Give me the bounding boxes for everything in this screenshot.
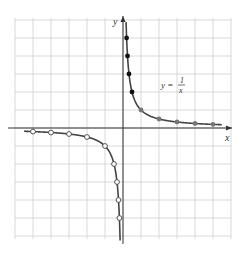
equation-lhs: y = xyxy=(160,80,173,90)
data-point-open-circle xyxy=(67,132,72,137)
y-axis-arrow-icon xyxy=(121,16,126,22)
data-point-filled-gray xyxy=(157,117,162,122)
equation-denominator: x xyxy=(178,86,183,95)
data-point-open-circle xyxy=(103,144,108,149)
data-point-filled-black xyxy=(125,54,130,59)
data-point-open-circle xyxy=(31,129,36,134)
x-axis-label: x xyxy=(224,132,230,143)
data-point-filled-gray xyxy=(211,122,216,127)
data-point-open-circle xyxy=(85,135,90,140)
y-axis-label: y xyxy=(112,16,118,27)
data-point-filled-black xyxy=(127,72,132,77)
data-point-filled-gray xyxy=(193,121,198,126)
data-point-filled-gray xyxy=(139,108,144,113)
data-point-open-circle xyxy=(116,198,121,203)
data-point-open-circle xyxy=(49,130,54,135)
data-point-filled-black xyxy=(124,36,129,41)
data-point-filled-gray xyxy=(175,120,180,125)
data-point-filled-black xyxy=(130,90,135,95)
data-point-open-circle xyxy=(115,180,120,185)
data-point-open-circle xyxy=(112,162,117,167)
equation-numerator: 1 xyxy=(180,76,184,85)
data-point-open-circle xyxy=(117,216,122,221)
hyperbola-chart: x y y = 1 x xyxy=(0,0,243,254)
